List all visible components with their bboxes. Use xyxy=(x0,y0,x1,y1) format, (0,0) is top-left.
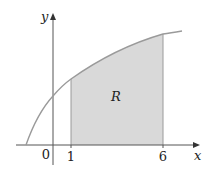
y-axis-arrow-icon xyxy=(50,13,56,20)
region-label: R xyxy=(110,89,121,104)
tick-label-6: 6 xyxy=(159,149,167,164)
origin-label: 0 xyxy=(42,147,50,162)
tick-label-1: 1 xyxy=(67,149,75,164)
y-axis-label: y xyxy=(40,9,49,24)
x-axis-label: x xyxy=(194,148,202,163)
area-diagram: R x y 0 1 6 xyxy=(0,0,215,178)
